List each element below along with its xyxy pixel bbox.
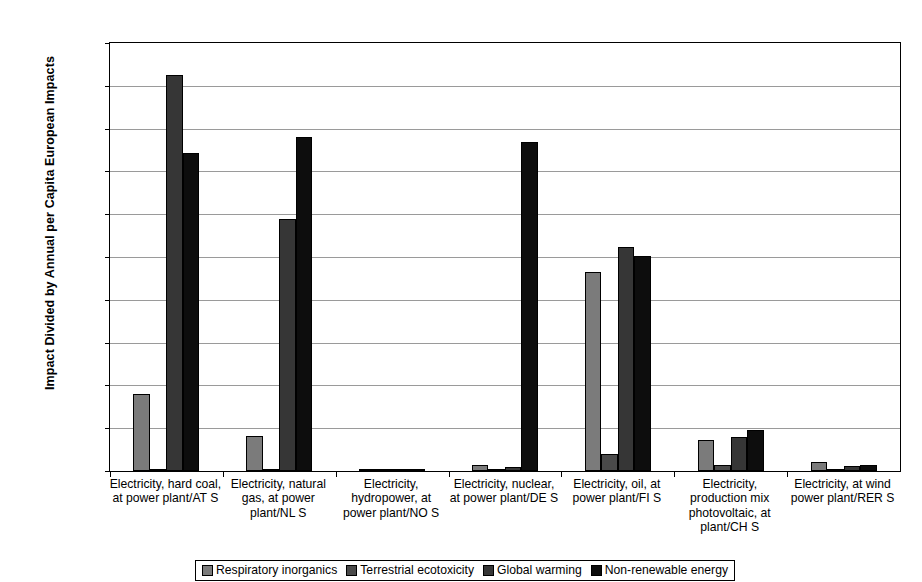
legend-label: Global warming <box>497 563 582 577</box>
x-axis-label: Electricity, oil, at power plant/FI S <box>560 477 673 506</box>
bar <box>811 462 828 471</box>
bar <box>166 75 183 471</box>
bar <box>618 247 635 471</box>
bar-group <box>449 43 562 471</box>
legend-label: Terrestrial ecotoxicity <box>360 563 474 577</box>
x-axis-label: Electricity, natural gas, at power plant… <box>222 477 335 520</box>
bar <box>714 465 731 471</box>
y-axis-title: Impact Divided by Annual per Capita Euro… <box>43 13 57 433</box>
bar <box>392 469 409 471</box>
bar <box>521 142 538 471</box>
bar <box>601 454 618 471</box>
bar <box>296 137 313 471</box>
bar <box>279 219 296 471</box>
legend-item: Global warming <box>483 563 582 577</box>
bar <box>585 272 602 471</box>
chart-figure: Impact Divided by Annual per Capita Euro… <box>0 0 922 582</box>
legend-item: Respiratory inorganics <box>202 563 337 577</box>
legend-label: Respiratory inorganics <box>216 563 337 577</box>
x-axis-label: Electricity, hard coal, at power plant/A… <box>109 477 222 506</box>
bar <box>183 153 200 471</box>
bar-group <box>674 43 787 471</box>
bar <box>844 466 861 471</box>
bar-group <box>223 43 336 471</box>
chart-legend: Respiratory inorganicsTerrestrial ecotox… <box>195 560 735 581</box>
legend-item: Terrestrial ecotoxicity <box>346 563 474 577</box>
bar-group <box>336 43 449 471</box>
legend-label: Non-renewable energy <box>605 563 728 577</box>
bar <box>409 469 426 471</box>
bar <box>376 469 393 471</box>
bar <box>488 469 505 471</box>
bar-group <box>110 43 223 471</box>
bar <box>263 469 280 471</box>
bar <box>150 469 167 471</box>
bar-group <box>561 43 674 471</box>
bar <box>246 436 263 471</box>
bar <box>827 469 844 471</box>
bar <box>731 437 748 471</box>
legend-swatch-icon <box>483 565 494 576</box>
x-axis-label: Electricity, production mix photovoltaic… <box>673 477 786 535</box>
legend-swatch-icon <box>202 565 213 576</box>
bar <box>698 440 715 471</box>
x-axis-label: Electricity, at wind power plant/RER S <box>786 477 899 506</box>
bar <box>634 256 651 471</box>
legend-swatch-icon <box>591 565 602 576</box>
legend-swatch-icon <box>346 565 357 576</box>
legend-item: Non-renewable energy <box>591 563 728 577</box>
bar <box>359 469 376 471</box>
plot-area: 00.000010.000020.000030.000040.000050.00… <box>109 42 901 472</box>
bar <box>472 465 489 471</box>
bar <box>505 467 522 471</box>
bar <box>860 465 877 471</box>
bar <box>133 394 150 471</box>
x-axis-label: Electricity, hydropower, at power plant/… <box>335 477 448 520</box>
bar <box>747 430 764 471</box>
bar-group <box>787 43 900 471</box>
x-axis-category-labels: Electricity, hard coal, at power plant/A… <box>109 477 899 549</box>
x-axis-label: Electricity, nuclear, at power plant/DE … <box>448 477 561 506</box>
